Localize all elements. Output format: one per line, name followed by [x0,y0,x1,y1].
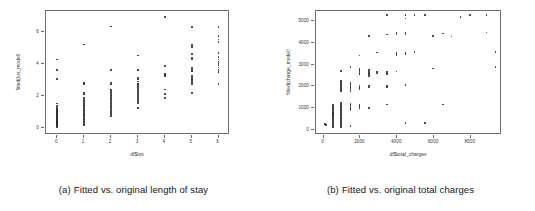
data-point [340,105,342,107]
data-point [460,16,462,18]
y-tick-label: 3000 [289,61,309,66]
data-point [368,75,370,77]
data-point [442,104,444,106]
x-axis-title-b: df$total_charges [390,151,427,157]
data-point [110,96,112,98]
data-point [83,97,85,99]
x-axis-title-a: df$los [130,151,143,157]
data-point [340,126,342,128]
y-tick [311,20,314,21]
data-point [110,112,112,114]
data-point [83,82,85,84]
data-point [191,77,193,79]
data-point [191,92,193,94]
data-point [83,113,85,115]
x-tick-label: 3 [136,139,139,144]
y-tick [41,127,44,128]
plot-area-b [315,10,501,134]
y-tick-label: 2 [19,92,39,97]
data-point [164,97,166,99]
data-point [137,107,139,109]
caption-b: (b)Fitted vs. original total charges [267,176,534,211]
data-point [110,93,112,95]
data-point [110,104,112,106]
data-point [83,44,85,46]
x-tick-label: 2000 [354,139,365,144]
data-point [424,122,426,124]
data-point [137,91,139,93]
y-tick [311,64,314,65]
data-point [164,65,166,67]
data-point [432,68,434,70]
x-tick [396,135,397,138]
captions-row: (a)Fitted vs. original length of stay (b… [0,176,535,211]
data-point [164,93,166,95]
x-tick-label: 8000 [464,139,475,144]
data-point [218,56,220,58]
data-point [191,46,193,48]
data-point [137,92,139,94]
data-point [332,104,334,106]
data-point [56,59,58,61]
data-point [350,90,352,92]
y-tick-label: 4 [19,60,39,65]
data-point [83,92,85,94]
data-point [191,26,193,28]
data-point [110,82,112,84]
data-point [340,109,342,111]
data-point [359,104,361,106]
data-point [405,18,407,20]
data-point [191,67,193,69]
x-tick-label: 4 [163,139,166,144]
data-point [137,97,139,99]
data-point [396,71,398,73]
data-point [218,35,220,37]
data-point [137,87,139,89]
x-tick [56,135,57,138]
data-point [164,16,166,18]
data-point [110,69,112,71]
data-point [218,83,220,85]
data-point [386,85,388,87]
x-tick-label: 2 [109,139,112,144]
data-point [359,107,361,109]
data-point [191,44,193,46]
data-point [386,72,388,74]
x-tick [164,135,165,138]
x-tick [218,135,219,138]
data-point [368,69,370,71]
caption-b-tag: (b) [327,184,339,195]
data-point [191,83,193,85]
data-point [350,125,352,127]
data-point [218,52,220,54]
data-point [83,118,85,120]
data-point [451,36,453,38]
plot-area-a [45,10,229,134]
data-point [405,84,407,86]
y-tick-label: 4000 [289,39,309,44]
x-tick [83,135,84,138]
data-point [218,61,220,63]
x-tick-label: 6000 [428,139,439,144]
y-tick [41,95,44,96]
y-tick [41,63,44,64]
data-point [83,109,85,111]
data-point [56,78,58,80]
data-point [376,52,378,54]
data-point [486,32,488,34]
data-point [495,51,497,53]
data-point [368,107,370,109]
data-point [218,64,220,66]
data-point [137,69,139,71]
data-point [191,75,193,77]
data-point [386,14,388,16]
data-point [218,71,220,73]
data-point [350,66,352,68]
data-point [110,89,112,91]
data-point [414,14,416,16]
x-tick-label: 1 [82,139,85,144]
data-point [191,71,193,73]
y-tick-label: 1000 [289,105,309,110]
x-tick-label: 5 [189,139,192,144]
y-tick-label: 0 [289,127,309,132]
